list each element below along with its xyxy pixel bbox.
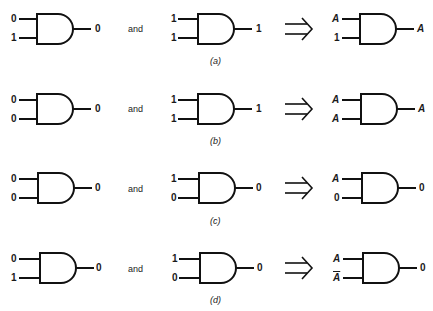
gate2-input2: 1 — [171, 33, 177, 43]
result-input1: A — [332, 174, 339, 184]
caption-b: (b) — [210, 136, 221, 146]
row-d: 0 1 0 and 1 0 0 A A 0 (d) — [0, 237, 433, 311]
implies-arrow-icon — [285, 98, 312, 120]
conjunction: and — [128, 104, 143, 114]
result-input1: A — [332, 95, 339, 105]
result-output: 0 — [419, 183, 425, 193]
gate2-output: 1 — [256, 104, 262, 114]
result-input2-complement: A — [333, 273, 340, 283]
gate1-output: 0 — [95, 24, 101, 34]
gate2-input2: 0 — [171, 193, 177, 203]
gate2-input2: 1 — [171, 114, 177, 124]
conjunction: and — [128, 24, 143, 34]
gate2-input2: 0 — [172, 273, 178, 283]
result-input2: 0 — [334, 193, 340, 203]
gate1-output: 0 — [95, 183, 101, 193]
caption-d: (d) — [210, 295, 221, 305]
gate2-input1: 1 — [171, 95, 177, 105]
result-output: A — [417, 24, 424, 34]
gate1-input2: 1 — [11, 33, 17, 43]
gate2-input1: 1 — [171, 14, 177, 24]
gate2-output: 0 — [256, 183, 262, 193]
conjunction: and — [128, 264, 143, 274]
gate1-input2: 0 — [11, 114, 17, 124]
gate2-output: 1 — [256, 24, 262, 34]
caption-a: (a) — [210, 56, 221, 66]
gate1-input1: 0 — [11, 95, 17, 105]
row-b: 0 0 0 and 1 1 1 A A A (b) — [0, 80, 433, 158]
gate1-output: 0 — [96, 263, 102, 273]
caption-c: (c) — [210, 216, 221, 226]
gate1-output: 0 — [95, 104, 101, 114]
result-input1: A — [332, 14, 339, 24]
implies-arrow-icon — [285, 18, 312, 40]
gate1-input1: 0 — [11, 14, 17, 24]
and-gate-diagrams — [0, 0, 433, 78]
gate2-input1: 1 — [171, 174, 177, 184]
result-output: 0 — [420, 263, 426, 273]
gate1-input2: 0 — [11, 193, 17, 203]
row-a: 0 1 0 and 1 1 1 A 1 A (a) — [0, 0, 433, 78]
gate1-input1: 0 — [11, 254, 17, 264]
gate1-input1: 0 — [11, 174, 17, 184]
gate2-input1: 1 — [172, 254, 178, 264]
result-input1: A — [333, 254, 340, 264]
implies-arrow-icon — [285, 177, 312, 199]
result-input2: 1 — [334, 33, 340, 43]
result-output: A — [418, 104, 425, 114]
result-input2: A — [332, 114, 339, 124]
gate1-input2: 1 — [11, 273, 17, 283]
row-c: 0 0 0 and 1 0 0 A 0 0 (c) — [0, 158, 433, 236]
gate2-output: 0 — [257, 263, 263, 273]
implies-arrow-icon — [285, 257, 312, 279]
conjunction: and — [128, 184, 143, 194]
and-gate-diagrams — [0, 80, 433, 158]
